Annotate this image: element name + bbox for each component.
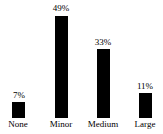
bar-none [12, 102, 25, 118]
category-label-medium: Medium [83, 119, 123, 129]
category-label-none: None [0, 119, 38, 129]
value-label-medium: 33% [88, 37, 118, 47]
category-label-minor: Minor [41, 119, 81, 129]
value-label-none: 7% [4, 90, 34, 100]
category-label-large: Large [125, 119, 163, 129]
bar-large [139, 93, 152, 118]
value-label-large: 11% [130, 81, 160, 91]
bar-minor [55, 16, 68, 118]
value-label-minor: 49% [46, 3, 76, 13]
bar-medium [97, 49, 110, 118]
